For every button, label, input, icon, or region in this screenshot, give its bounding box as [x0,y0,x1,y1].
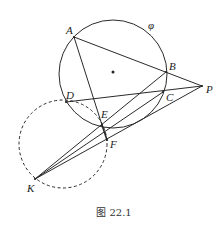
label-C: C [166,91,174,103]
point-F-dot [106,139,108,141]
segment-AE [74,37,102,125]
segment-AP [74,37,202,86]
segment-DP [66,86,202,102]
circle-dashed [19,100,107,188]
point-A-dot [73,36,75,38]
label-F: F [109,138,117,150]
label-D: D [65,89,74,101]
label-E: E [100,108,108,120]
point-P-dot [201,85,203,87]
point-K-dot [34,178,36,180]
point-B-dot [165,71,167,73]
segment-KB [35,72,166,179]
label-B: B [169,60,176,72]
point-E-dot [101,124,103,126]
label-phi: φ [148,19,154,31]
label-A: A [65,24,73,36]
circle-phi [59,20,167,128]
label-K: K [26,182,35,194]
geometry-figure: φ A B C D E F K P 图 22.1 [0,0,224,226]
segment-KC [35,92,163,179]
point-D-dot [65,101,67,103]
point-C-dot [162,91,164,93]
figure-caption: 图 22.1 [96,207,131,218]
label-P: P [205,83,213,95]
center-dot [112,71,115,74]
